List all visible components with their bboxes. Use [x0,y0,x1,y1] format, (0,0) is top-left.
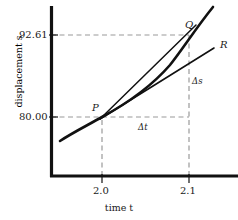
x-tick-label-left: 2.0 [93,186,109,196]
point-label-p: P [92,103,99,113]
y-axis-title: displacement s [13,35,24,107]
delta-s-label: Δs [192,77,203,86]
secant-tangent-figure: 92.61 80.00 2.0 2.1 time t displacement … [0,0,238,220]
point-label-q: Q [185,20,193,30]
y-tick-label-lower: 80.00 [19,112,48,122]
y-axis-title-wrapper: displacement s [7,32,26,112]
point-label-r: R [220,40,228,50]
x-tick-label-right: 2.1 [180,186,196,196]
delta-t-label: Δt [138,123,148,132]
secant-line-pq [100,25,196,119]
x-axis-title: time t [105,203,133,213]
